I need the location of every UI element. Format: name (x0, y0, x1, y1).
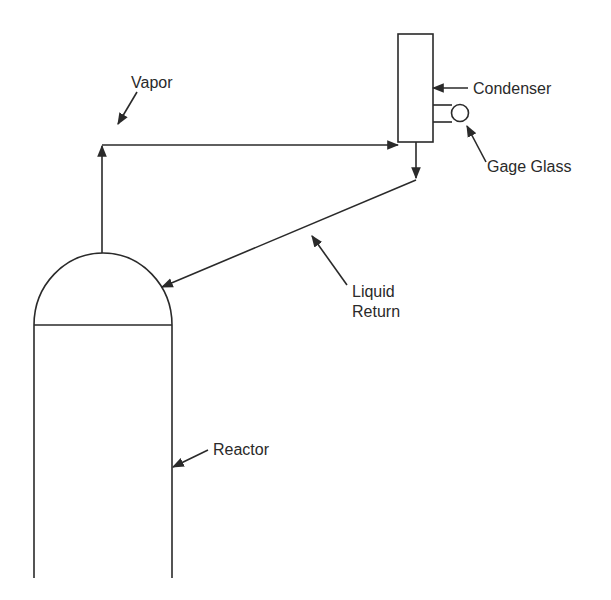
gage-glass (433, 105, 469, 123)
liquid-label: Liquid (352, 282, 395, 301)
return-label: Return (352, 302, 400, 321)
reactor-callout-arrow (173, 450, 208, 467)
vapor-callout-arrow (118, 92, 137, 124)
gage-glass-label: Gage Glass (487, 157, 571, 176)
gage-glass-callout-arrow (467, 126, 486, 162)
reactor-vessel (34, 253, 172, 578)
reactor-dome (34, 253, 172, 325)
liquid-return-callout-arrow (312, 236, 347, 285)
vapor-label: Vapor (131, 73, 173, 92)
liquid-return-line (162, 142, 416, 287)
gage-glass-sight (452, 105, 469, 122)
reactor-label: Reactor (213, 440, 269, 459)
condenser-label: Condenser (473, 79, 551, 98)
liquid-return-pipe (162, 180, 416, 287)
condenser-body (398, 34, 433, 142)
vapor-line (102, 145, 398, 253)
